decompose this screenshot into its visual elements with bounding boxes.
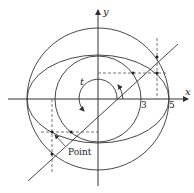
point-ellipse-upper [156, 72, 159, 75]
point-inner-upper [132, 72, 135, 75]
parametric-ellipse-diagram: y x 3 5 t Point [0, 0, 194, 193]
y-axis-label: y [102, 6, 109, 17]
point-outer-upper [156, 56, 159, 59]
point-outer-lower [51, 153, 54, 156]
point-label: Point [68, 147, 92, 157]
point-inner-lower [70, 131, 73, 134]
x-axis-label: x [185, 86, 191, 97]
tick-label-3: 3 [141, 100, 147, 110]
point-ellipse-lower [51, 131, 54, 134]
angle-line [28, 44, 178, 181]
tick-label-5: 5 [169, 100, 175, 110]
